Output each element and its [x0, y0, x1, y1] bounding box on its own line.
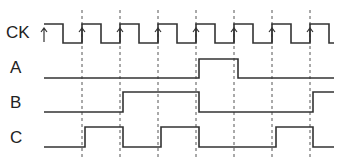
ck-waveform [44, 24, 334, 43]
timing-diagram [0, 0, 345, 162]
b-waveform [44, 92, 334, 112]
a-waveform [44, 59, 334, 78]
c-waveform [44, 127, 334, 147]
